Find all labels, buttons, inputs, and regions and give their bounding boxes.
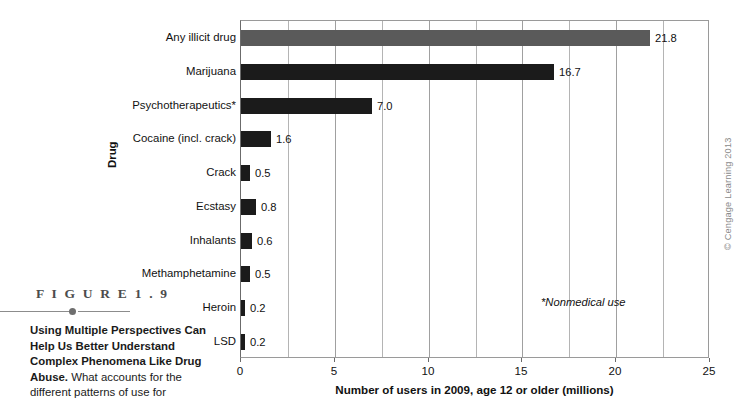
bar	[241, 233, 252, 249]
x-tick-mark	[615, 358, 616, 362]
bar-row: 0.5	[241, 266, 271, 282]
bar-row: 0.5	[241, 165, 271, 181]
bar	[241, 199, 256, 215]
bar-row: 0.2	[241, 300, 266, 316]
footnote-annotation: *Nonmedical use	[541, 296, 626, 308]
category-label: Crack	[110, 164, 236, 180]
category-label: Heroin	[110, 299, 236, 315]
bar-row: 0.6	[241, 233, 273, 249]
bar-row: 0.8	[241, 199, 277, 215]
bar	[241, 334, 245, 350]
bar-value-label: 16.7	[559, 66, 581, 78]
bar-series: 21.816.77.01.60.50.80.60.50.20.2	[241, 21, 708, 357]
category-axis-labels: Any illicit drugMarijuanaPsychotherapeut…	[110, 20, 236, 358]
category-label: Cocaine (incl. crack)	[110, 130, 236, 146]
category-label: Ecstasy	[110, 198, 236, 214]
bar-value-label: 21.8	[655, 32, 677, 44]
x-tick-mark	[428, 358, 429, 362]
x-tick-label: 0	[237, 364, 243, 377]
divider-dot	[69, 308, 76, 315]
bar-row: 7.0	[241, 98, 393, 114]
bar-row: 21.8	[241, 30, 677, 46]
bar	[241, 266, 250, 282]
x-axis-title: Number of users in 2009, age 12 or older…	[240, 383, 709, 396]
bar	[241, 98, 372, 114]
category-label: Inhalants	[110, 232, 236, 248]
x-tick-label: 5	[331, 364, 337, 377]
bar-value-label: 0.6	[257, 235, 273, 247]
x-tick-label: 25	[703, 364, 716, 377]
bar-value-label: 0.2	[250, 302, 266, 314]
divider-rule-left	[0, 311, 70, 312]
x-tick-mark	[240, 358, 241, 362]
bar-row: 0.2	[241, 334, 266, 350]
bar-value-label: 0.2	[250, 336, 266, 348]
bar-value-label: 7.0	[377, 100, 393, 112]
bar-value-label: 1.6	[276, 133, 292, 145]
copyright-credit: © Cengage Learning 2013	[723, 137, 733, 250]
bar-chart: Drug Any illicit drugMarijuanaPsychother…	[110, 0, 747, 410]
x-tick-label: 15	[515, 364, 528, 377]
x-tick-mark	[709, 358, 710, 362]
x-tick-mark	[521, 358, 522, 362]
plot-area: 21.816.77.01.60.50.80.60.50.20.2 *Nonmed…	[240, 20, 709, 358]
bar-value-label: 0.8	[261, 201, 277, 213]
x-tick-label: 10	[422, 364, 435, 377]
bar-value-label: 0.5	[255, 167, 271, 179]
category-label: Psychotherapeutics*	[110, 97, 236, 113]
bar	[241, 131, 271, 147]
x-axis-ticks: 0510152025	[240, 358, 709, 380]
x-tick-mark	[334, 358, 335, 362]
bar-row: 1.6	[241, 131, 292, 147]
bar-value-label: 0.5	[255, 268, 271, 280]
x-tick-label: 20	[609, 364, 622, 377]
category-label: Methamphetamine	[110, 265, 236, 281]
bar	[241, 30, 650, 46]
category-label: Any illicit drug	[110, 29, 236, 45]
category-label: Marijuana	[110, 63, 236, 79]
bar-row: 16.7	[241, 64, 581, 80]
bar	[241, 64, 554, 80]
bar	[241, 300, 245, 316]
bar	[241, 165, 250, 181]
category-label: LSD	[110, 333, 236, 349]
